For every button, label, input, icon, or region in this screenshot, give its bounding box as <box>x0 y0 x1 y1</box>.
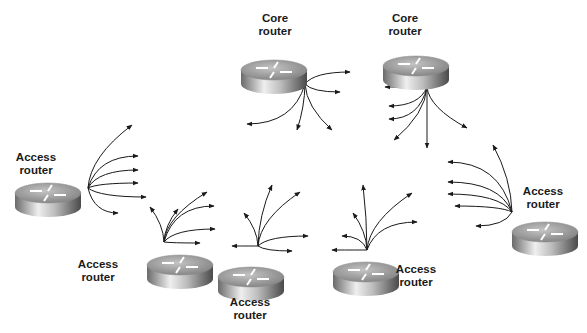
router-label-line1: Access <box>508 185 578 198</box>
route-arrow <box>258 246 292 251</box>
router-label-line1: Access <box>63 258 133 271</box>
arrow-fan-access-bottom-3 <box>332 185 417 250</box>
route-arrow <box>363 185 367 250</box>
route-arrow <box>448 162 512 212</box>
arrow-fans <box>88 72 512 251</box>
arrow-fan-access-bottom-2 <box>232 185 308 251</box>
route-arrow <box>448 182 512 212</box>
router-label-line1: Access <box>381 263 451 276</box>
route-arrow <box>258 236 308 246</box>
router-label-line2: router <box>370 25 440 38</box>
router-label-line1: Access <box>215 296 285 309</box>
router-label-line2: router <box>381 276 451 289</box>
router-icon <box>147 255 213 289</box>
route-arrow <box>342 236 367 250</box>
route-arrow <box>353 213 367 250</box>
arrow-fan-access-right <box>448 145 512 226</box>
arrow-fan-access-bottom-1 <box>150 192 215 243</box>
router-label-line2: router <box>63 271 133 284</box>
route-arrow <box>244 213 258 246</box>
route-arrow <box>164 192 207 242</box>
router-label-access-bottom-2: Accessrouter <box>215 296 285 322</box>
router-label-line2: router <box>1 164 71 177</box>
router-label-line1: Access <box>1 151 71 164</box>
router-label-access-bottom-3: Accessrouter <box>381 263 451 289</box>
route-arrow <box>427 87 467 128</box>
route-arrow <box>367 222 417 250</box>
router-icon <box>512 222 578 256</box>
router-icon <box>241 60 307 94</box>
router-label-core-2: Corerouter <box>370 12 440 38</box>
route-arrow <box>476 212 512 226</box>
router-label-access-right: Accessrouter <box>508 185 578 211</box>
router-label-line2: router <box>215 309 285 322</box>
route-arrow <box>88 188 118 213</box>
route-arrow <box>305 72 350 84</box>
arrow-fan-core-2 <box>385 87 467 148</box>
router-label-access-bottom-1: Accessrouter <box>63 258 133 284</box>
router-icon <box>383 56 449 90</box>
route-arrow <box>164 229 215 242</box>
arrow-fan-access-left <box>88 125 146 213</box>
route-arrow <box>150 207 164 242</box>
route-arrow <box>164 242 200 243</box>
route-arrow <box>305 84 340 92</box>
router-label-core-1: Corerouter <box>240 12 310 38</box>
route-arrow <box>88 183 138 188</box>
router-icon <box>15 183 81 217</box>
router-label-line2: router <box>508 198 578 211</box>
route-arrow <box>297 84 305 130</box>
route-arrow <box>305 84 332 130</box>
route-arrow <box>88 188 146 197</box>
route-arrow <box>455 206 512 212</box>
router-label-access-left: Accessrouter <box>1 151 71 177</box>
router-label-line1: Core <box>240 12 310 25</box>
router-label-line2: router <box>240 25 310 38</box>
router-label-line1: Core <box>370 12 440 25</box>
route-arrow <box>367 193 412 250</box>
